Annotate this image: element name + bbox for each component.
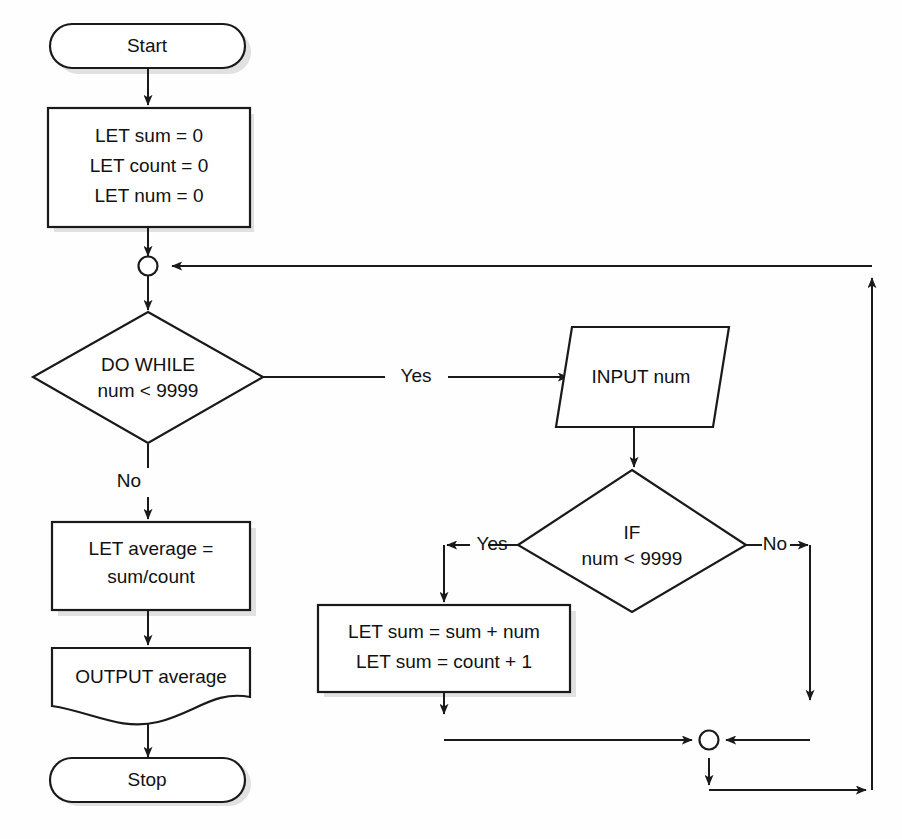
accumulate-line-1: LET sum = sum + num bbox=[348, 621, 540, 642]
average-line-2: sum/count bbox=[107, 566, 195, 587]
node-loop-junction[interactable] bbox=[139, 257, 158, 276]
init-line-1: LET sum = 0 bbox=[95, 125, 203, 146]
input-num-label: INPUT num bbox=[592, 366, 691, 387]
node-if-check[interactable]: IF num < 9999 bbox=[518, 470, 746, 612]
accumulate-process-shape bbox=[318, 605, 570, 692]
node-do-while[interactable]: DO WHILE num < 9999 bbox=[33, 312, 263, 443]
node-accumulate[interactable]: LET sum = sum + num LET sum = count + 1 bbox=[318, 605, 570, 692]
node-output[interactable]: OUTPUT average bbox=[52, 648, 250, 724]
node-start[interactable]: Start bbox=[50, 24, 245, 68]
accumulate-line-2: LET sum = count + 1 bbox=[356, 651, 532, 672]
do-while-line-2: num < 9999 bbox=[98, 380, 199, 401]
edge-label-if-no: No bbox=[763, 533, 787, 554]
node-average[interactable]: LET average = sum/count bbox=[52, 522, 250, 610]
edge-label-if-yes: Yes bbox=[477, 533, 508, 554]
node-merge-junction[interactable] bbox=[700, 731, 719, 750]
stop-label: Stop bbox=[127, 769, 166, 790]
average-line-1: LET average = bbox=[89, 538, 214, 559]
flowchart-canvas: Start LET sum = 0 LET count = 0 LET num … bbox=[0, 0, 902, 839]
init-line-2: LET count = 0 bbox=[90, 155, 208, 176]
loop-junction-circle bbox=[139, 257, 158, 276]
node-input-num[interactable]: INPUT num bbox=[556, 327, 729, 427]
node-init[interactable]: LET sum = 0 LET count = 0 LET num = 0 bbox=[48, 108, 250, 227]
if-check-line-2: num < 9999 bbox=[582, 548, 683, 569]
merge-junction-circle bbox=[700, 731, 719, 750]
edge-label-do-while-yes: Yes bbox=[401, 365, 432, 386]
do-while-line-1: DO WHILE bbox=[101, 354, 195, 375]
flowchart-svg: Start LET sum = 0 LET count = 0 LET num … bbox=[0, 0, 902, 839]
start-label: Start bbox=[127, 35, 168, 56]
if-check-line-1: IF bbox=[624, 522, 641, 543]
do-while-decision-shape bbox=[33, 312, 263, 443]
node-stop[interactable]: Stop bbox=[50, 758, 245, 802]
output-label: OUTPUT average bbox=[75, 666, 227, 687]
edge-label-do-while-no: No bbox=[117, 470, 141, 491]
init-line-3: LET num = 0 bbox=[95, 185, 204, 206]
